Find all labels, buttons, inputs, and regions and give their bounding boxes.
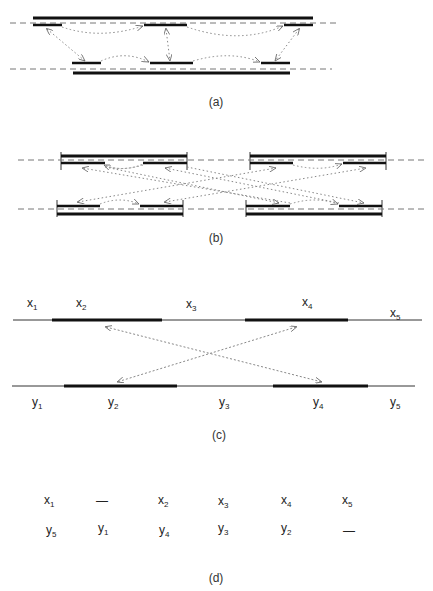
label-x3: x3	[186, 298, 196, 313]
d-row1-col2: —	[96, 495, 108, 510]
diagram-canvas	[0, 0, 433, 591]
d-row1-col4: x3	[218, 495, 228, 510]
panel-c	[12, 320, 422, 386]
d-row1-col6: x5	[342, 494, 352, 509]
d-row2-col5: y2	[281, 522, 291, 537]
d-row2-col2: y1	[98, 522, 108, 537]
caption-b: (b)	[209, 232, 224, 244]
panel-a	[10, 18, 340, 73]
caption-d: (d)	[209, 572, 224, 584]
label-y5: y5	[390, 396, 400, 411]
d-row2-col4: y3	[218, 522, 228, 537]
label-x2: x2	[76, 297, 86, 312]
caption-c: (c)	[212, 429, 226, 441]
d-row1-col5: x4	[281, 494, 291, 509]
d-row2-col3: y4	[159, 524, 169, 539]
label-y3: y3	[219, 396, 229, 411]
d-row1-col1: x1	[44, 494, 54, 509]
d-row2-col6: —	[343, 525, 355, 540]
panel-b	[18, 152, 425, 217]
d-row2-col1: y5	[46, 524, 56, 539]
label-y4: y4	[313, 396, 323, 411]
label-x4: x4	[302, 296, 312, 311]
label-y1: y1	[32, 396, 42, 411]
caption-a: (a)	[209, 96, 224, 108]
label-x5: x5	[390, 307, 400, 322]
label-y2: y2	[108, 396, 118, 411]
label-x1: x1	[27, 297, 37, 312]
d-row1-col3: x2	[158, 494, 168, 509]
